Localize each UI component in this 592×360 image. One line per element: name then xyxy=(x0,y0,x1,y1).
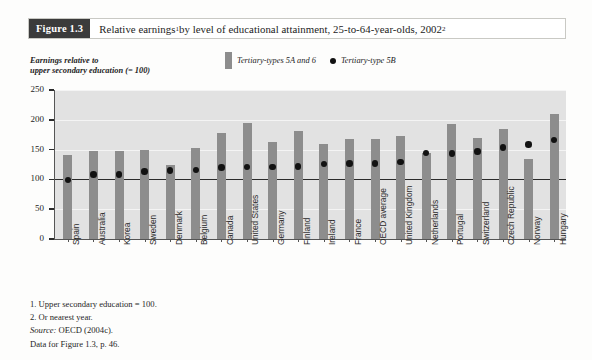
x-tick-mark xyxy=(375,239,376,242)
y-tick-mark xyxy=(49,89,54,91)
gridline xyxy=(54,120,566,121)
data-point xyxy=(372,160,379,167)
data-point xyxy=(525,141,532,148)
x-axis-label: Netherlands xyxy=(430,200,440,245)
x-axis-label: United States xyxy=(250,195,260,245)
x-axis-label: Czech Republic xyxy=(506,186,516,245)
x-tick-mark xyxy=(170,239,171,242)
data-point xyxy=(218,164,225,171)
x-axis-label: Spain xyxy=(71,224,81,245)
source-text: OECD (2004c). xyxy=(56,325,113,335)
data-point xyxy=(500,144,507,151)
x-tick-mark xyxy=(477,239,478,242)
data-point xyxy=(90,171,97,178)
x-axis-label: Sweden xyxy=(148,215,158,245)
y-tick-label: 50 xyxy=(18,203,44,213)
x-axis-label: Norway xyxy=(532,217,542,245)
x-axis-label: Belgium xyxy=(199,215,209,245)
y-tick-label: 0 xyxy=(18,233,44,243)
x-axis-label: Korea xyxy=(122,223,132,245)
figure-title-mid: by level of educational attainment, 25-t… xyxy=(179,23,442,35)
x-tick-mark xyxy=(273,239,274,242)
figure-number-tag: Figure 1.3 xyxy=(29,19,90,38)
gridline xyxy=(54,150,566,151)
y-tick-mark xyxy=(49,208,54,210)
data-point xyxy=(269,164,276,171)
note-source: Source: OECD (2004c). xyxy=(30,324,157,337)
y-tick-label: 150 xyxy=(18,144,44,154)
data-point xyxy=(346,160,353,167)
note-data-reference: Data for Figure 1.3, p. 46. xyxy=(30,338,157,351)
x-tick-mark xyxy=(247,239,248,242)
x-tick-mark xyxy=(426,239,427,242)
y-tick-mark xyxy=(49,149,54,151)
chart-plot-area: 050100150200250 SpainAustraliaKoreaSwede… xyxy=(54,90,566,239)
x-axis-label: Portugal xyxy=(455,214,465,245)
reference-line-100 xyxy=(54,179,566,180)
y-tick-label: 100 xyxy=(18,173,44,183)
y-tick-label: 200 xyxy=(18,114,44,124)
x-axis-label: Denmark xyxy=(174,211,184,245)
legend-bar-label: Tertiary-types 5A and 6 xyxy=(237,56,316,65)
y-tick-mark xyxy=(49,238,54,240)
x-tick-mark xyxy=(119,239,120,242)
x-tick-mark xyxy=(145,239,146,242)
x-tick-mark xyxy=(324,239,325,242)
data-point xyxy=(116,171,123,178)
source-label: Source: xyxy=(30,325,56,335)
x-tick-mark xyxy=(503,239,504,242)
x-axis-label: United Kingdom xyxy=(404,185,414,245)
note-1: 1. Upper secondary education = 100. xyxy=(30,298,157,311)
x-axis-label: Germany xyxy=(276,211,286,245)
y-tick-mark xyxy=(49,179,54,181)
x-tick-mark xyxy=(349,239,350,242)
y-axis-caption-line1: Earnings relative to xyxy=(30,56,150,66)
x-tick-mark xyxy=(196,239,197,242)
y-axis-caption-line2: upper secondary education (= 100) xyxy=(30,66,150,76)
note-2: 2. Or nearest year. xyxy=(30,311,157,324)
legend-item-bar: Tertiary-types 5A and 6 xyxy=(225,52,316,69)
data-point xyxy=(449,150,456,157)
x-tick-mark xyxy=(298,239,299,242)
x-axis-label: Finland xyxy=(302,218,312,245)
y-axis-line xyxy=(54,90,55,239)
page-title: Relative earnings1 by level of education… xyxy=(90,19,565,38)
x-axis-label: Hungary xyxy=(558,213,568,245)
y-axis-caption: Earnings relative to upper secondary edu… xyxy=(30,56,150,77)
data-point xyxy=(141,168,148,175)
chart-legend: Tertiary-types 5A and 6 Tertiary-type 5B xyxy=(225,52,396,69)
x-axis-label: OECD average xyxy=(378,188,388,245)
gridline xyxy=(54,90,566,91)
y-tick-label: 250 xyxy=(18,84,44,94)
legend-dot-swatch-icon xyxy=(330,58,336,64)
legend-dot-label: Tertiary-type 5B xyxy=(341,56,396,65)
x-tick-mark xyxy=(401,239,402,242)
data-point xyxy=(295,163,302,170)
x-tick-mark xyxy=(554,239,555,242)
figure-title-prefix: Relative earnings xyxy=(99,23,175,35)
x-tick-mark xyxy=(221,239,222,242)
x-tick-mark xyxy=(529,239,530,242)
legend-bar-swatch-icon xyxy=(225,52,232,69)
data-point xyxy=(474,148,481,155)
x-axis-label: Australia xyxy=(97,212,107,245)
legend-item-dot: Tertiary-type 5B xyxy=(330,56,396,65)
x-axis-label: Ireland xyxy=(327,219,337,245)
figure-page: Figure 1.3 Relative earnings1 by level o… xyxy=(0,0,592,360)
x-axis-label: Switzerland xyxy=(481,202,491,245)
x-axis-label: Canada xyxy=(225,216,235,245)
figure-title-bar: Figure 1.3 Relative earnings1 by level o… xyxy=(28,18,566,39)
x-tick-mark xyxy=(93,239,94,242)
x-axis-label: France xyxy=(353,219,363,245)
x-tick-mark xyxy=(68,239,69,242)
y-tick-mark xyxy=(49,119,54,121)
x-tick-mark xyxy=(452,239,453,242)
figure-notes: 1. Upper secondary education = 100. 2. O… xyxy=(30,298,157,351)
